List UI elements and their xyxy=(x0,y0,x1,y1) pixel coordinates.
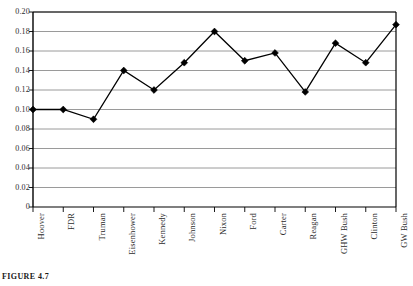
y-axis-tick-label: 0.06 xyxy=(4,145,30,153)
data-point-marker xyxy=(90,116,97,123)
y-axis-tick-label: 0.08 xyxy=(4,125,30,133)
x-axis-tick-label: Johnson xyxy=(188,213,197,242)
line-chart: 0.200.180.160.140.120.100.080.060.040.02… xyxy=(0,0,413,215)
y-axis-labels: 0.200.180.160.140.120.100.080.060.040.02… xyxy=(0,0,30,215)
y-axis-tick-label: 0.18 xyxy=(4,28,30,36)
data-point-marker xyxy=(60,106,67,113)
x-axis-tick-label: Clinton xyxy=(370,213,379,240)
series-line xyxy=(33,25,396,120)
x-axis-tick-label: Truman xyxy=(98,213,107,241)
gridlines xyxy=(33,12,396,188)
chart-plot-svg xyxy=(0,0,413,215)
y-axis-tick-label: 0.02 xyxy=(4,184,30,192)
figure-container: 0.200.180.160.140.120.100.080.060.040.02… xyxy=(0,0,413,286)
data-point-marker xyxy=(30,106,37,113)
y-axis-tick-label: 0.10 xyxy=(4,106,30,114)
data-point-markers xyxy=(30,21,400,122)
x-axis-tick-label: Nixon xyxy=(219,213,228,235)
x-axis-tick-label: Kennedy xyxy=(158,213,167,245)
x-axis-tick-label: FDR xyxy=(67,213,76,230)
x-axis-tick-label: Carter xyxy=(279,213,288,235)
x-axis-tick-label: Reagan xyxy=(309,213,318,239)
x-axis-tick-label: Eisenhower xyxy=(128,213,137,255)
y-axis-tick-label: 0.16 xyxy=(4,47,30,55)
x-axis-tick-label: GW Bush xyxy=(400,213,409,248)
y-axis-tick-label: 0.20 xyxy=(4,8,30,16)
x-axis-tick-label: Ford xyxy=(249,213,258,230)
y-axis-tick-label: 0.14 xyxy=(4,67,30,75)
y-axis-tick-label: 0.12 xyxy=(4,86,30,94)
data-point-marker xyxy=(332,40,339,47)
x-axis-tick-label: GHW Bush xyxy=(340,213,349,254)
x-axis-labels: HooverFDRTrumanEisenhowerKennedyJohnsonN… xyxy=(0,207,413,286)
x-axis-tick-label: Hoover xyxy=(37,213,46,239)
data-point-marker xyxy=(120,67,127,74)
y-axis-tick-label: 0.04 xyxy=(4,164,30,172)
figure-caption: FIGURE 4.7 xyxy=(2,272,49,281)
